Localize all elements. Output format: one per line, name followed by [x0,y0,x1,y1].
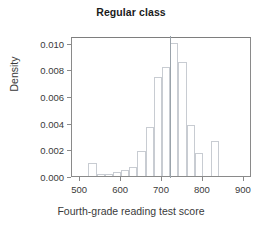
histogram-bar [178,62,186,176]
x-tick-label: 900 [235,184,251,195]
y-tick-label: 0.010 [40,38,64,49]
histogram-bar [121,170,129,176]
y-tick-label: 0.008 [40,65,64,76]
histogram-bar [113,172,121,176]
histogram-bar [129,167,137,176]
y-axis-label: Density [8,24,20,124]
histogram-bar [137,151,145,176]
x-tick-mark [120,177,121,181]
histogram-bar [170,43,178,176]
histogram-bar [211,141,219,176]
y-tick-label: 0.004 [40,118,64,129]
x-tick-label: 700 [153,184,169,195]
y-tick-mark [67,177,71,178]
histogram-bar [187,125,195,176]
y-tick-label: 0.002 [40,145,64,156]
histogram-bar [97,174,105,176]
x-tick-label: 500 [71,184,87,195]
x-tick-mark [243,177,244,181]
x-tick-mark [79,177,80,181]
x-tick-label: 800 [194,184,210,195]
y-tick-label: 0.000 [40,172,64,183]
x-axis-label: Fourth-grade reading test score [0,205,262,217]
histogram-bar [154,77,162,176]
reference-line [170,36,171,178]
y-tick-label: 0.006 [40,92,64,103]
x-tick-label: 600 [112,184,128,195]
x-tick-mark [161,177,162,181]
histogram-bar [105,174,113,176]
plot-area [71,37,251,177]
histogram-bar [88,163,96,176]
chart-figure: Regular class Density Fourth-grade readi… [0,0,262,230]
histogram-bar [195,153,203,176]
x-tick-mark [202,177,203,181]
chart-title: Regular class [0,6,262,18]
histogram-bars [72,38,250,176]
histogram-bar [146,127,154,176]
histogram-bar [162,67,170,176]
